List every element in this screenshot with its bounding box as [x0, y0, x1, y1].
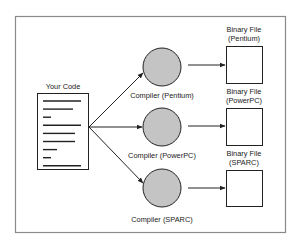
compiler-circle: [143, 48, 181, 86]
source-code-node: Your Code: [38, 82, 89, 170]
compiler-label: Compiler (SPARC): [131, 215, 192, 224]
compiler-label: Compiler (PowerPC): [128, 151, 196, 160]
binary-file-pentium-node: Binary File (Pentium): [227, 25, 263, 84]
binary-label-line2: (Pentium): [228, 34, 260, 43]
source-label: Your Code: [46, 82, 81, 91]
binary-label-line2: (SPARC): [229, 158, 259, 167]
compiler-circle: [143, 108, 181, 146]
binary-label-line1: Binary File: [227, 25, 262, 34]
compiler-circle: [143, 169, 181, 207]
compiler-label: Compiler (Pentium): [130, 91, 194, 100]
binary-label-line2: (PowerPC): [226, 96, 262, 105]
binary-label-line1: Binary File: [227, 149, 262, 158]
binary-file-box: [227, 47, 263, 84]
binary-file-box: [227, 109, 263, 146]
binary-file-powerpc-node: Binary File (PowerPC): [226, 87, 263, 146]
compilation-diagram: Your Code Compiler (Pentium) Compiler (P…: [0, 0, 297, 241]
binary-file-sparc-node: Binary File (SPARC): [227, 149, 263, 207]
diagram-canvas: Your Code Compiler (Pentium) Compiler (P…: [0, 0, 297, 241]
binary-label-line1: Binary File: [227, 87, 262, 96]
binary-file-box: [227, 171, 263, 207]
